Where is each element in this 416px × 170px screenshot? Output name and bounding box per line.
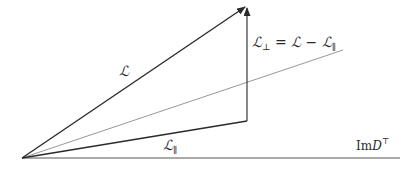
label-l-parallel: ℒ∥ [163,137,177,155]
vector-l [22,7,245,158]
label-image-d-transpose: ImD⊤ [356,137,389,153]
projection-diagram: ℒ ℒ∥ ℒ⊥ = ℒ − ℒ∥ ImD⊤ [0,0,416,170]
label-l: ℒ [119,63,130,79]
label-l-perp-equation: ℒ⊥ = ℒ − ℒ∥ [252,34,336,52]
thin-reference-line [22,50,343,158]
vector-l-parallel [22,121,247,158]
